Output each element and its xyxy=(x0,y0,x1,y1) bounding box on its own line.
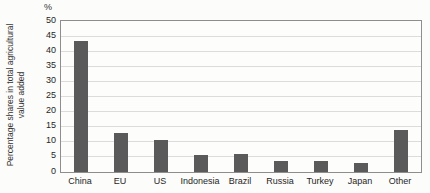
bar-eu xyxy=(114,133,128,172)
x-tick-label-china: China xyxy=(60,176,100,186)
y-tick-label-50: 50 xyxy=(32,15,56,25)
x-tick-label-other: Other xyxy=(380,176,420,186)
bar-japan xyxy=(354,163,368,172)
y-tick-label-40: 40 xyxy=(32,45,56,55)
y-tick-label-10: 10 xyxy=(32,135,56,145)
bar-chart: Percentage shares in total agricultural … xyxy=(0,0,430,193)
x-tick-label-brazil: Brazil xyxy=(220,176,260,186)
bar-other xyxy=(394,130,408,172)
y-axis-unit-label: % xyxy=(44,2,52,12)
y-tick-label-45: 45 xyxy=(32,30,56,40)
x-tick-label-russia: Russia xyxy=(260,176,300,186)
bar-brazil xyxy=(234,154,248,172)
y-tick-label-35: 35 xyxy=(32,60,56,70)
bar-turkey xyxy=(314,161,328,172)
gridline-45 xyxy=(61,36,421,37)
gridline-35 xyxy=(61,66,421,67)
y-axis-title-line2: value added xyxy=(16,13,27,177)
x-tick-label-turkey: Turkey xyxy=(300,176,340,186)
y-tick-label-15: 15 xyxy=(32,120,56,130)
y-tick-label-30: 30 xyxy=(32,75,56,85)
y-tick-label-25: 25 xyxy=(32,90,56,100)
y-axis-title: Percentage shares in total agricultural … xyxy=(5,13,27,177)
gridline-40 xyxy=(61,51,421,52)
plot-area xyxy=(60,20,422,173)
gridline-25 xyxy=(61,96,421,97)
x-tick-label-indonesia: Indonesia xyxy=(180,176,220,186)
bar-china xyxy=(74,41,88,172)
gridline-15 xyxy=(61,126,421,127)
gridline-30 xyxy=(61,81,421,82)
y-axis-title-line1: Percentage shares in total agricultural xyxy=(5,13,16,177)
y-tick-label-20: 20 xyxy=(32,105,56,115)
bar-indonesia xyxy=(194,155,208,172)
bar-russia xyxy=(274,161,288,172)
y-tick-label-0: 0 xyxy=(32,166,56,176)
x-tick-label-japan: Japan xyxy=(340,176,380,186)
x-tick-label-us: US xyxy=(140,176,180,186)
x-tick-label-eu: EU xyxy=(100,176,140,186)
y-tick-label-5: 5 xyxy=(32,150,56,160)
bar-us xyxy=(154,140,168,172)
gridline-20 xyxy=(61,111,421,112)
